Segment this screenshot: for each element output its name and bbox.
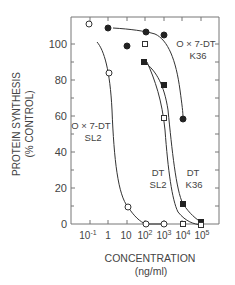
open-circle-marker xyxy=(106,70,112,76)
y-tick-100: 100 xyxy=(49,38,67,50)
annotation-dt-sl2-line2: SL2 xyxy=(150,179,167,190)
curve-ox7dt-sl2 xyxy=(97,42,164,224)
curve-dt-sl2 xyxy=(147,62,201,225)
annotation-ox7dt-k36-line1: O × 7-DT xyxy=(176,38,216,49)
filled-circle-marker xyxy=(180,116,186,122)
x-tick-labels: 10-1 1 10 102 103 104 105 xyxy=(79,229,209,241)
series-ox7dt-k36-markers xyxy=(105,25,186,122)
x-tick-10: 10 xyxy=(120,230,132,241)
series-dt-k36-markers xyxy=(142,60,204,225)
open-circle-marker xyxy=(143,221,149,227)
x-axis-title-line1: CONCENTRATION xyxy=(105,252,196,264)
filled-circle-marker xyxy=(105,25,111,31)
x-axis-title-line2: (ng/ml) xyxy=(135,265,168,277)
annotation-dt-k36-line2: K36 xyxy=(186,179,203,190)
annotation-dt-sl2-line1: DT xyxy=(152,167,165,178)
filled-square-marker xyxy=(181,202,186,207)
y-tick-60: 60 xyxy=(55,110,67,122)
y-tick-40: 40 xyxy=(55,146,67,158)
y-axis-title-line1: PROTEIN SYNTHESIS xyxy=(11,72,22,176)
annotation-dt-k36-line1: DT xyxy=(187,167,200,178)
open-square-marker xyxy=(181,222,186,227)
filled-square-marker xyxy=(142,60,147,65)
open-square-marker xyxy=(143,42,148,47)
x-tick-100: 102 xyxy=(137,229,152,241)
y-tick-labels: 100 80 60 40 20 0 xyxy=(49,38,67,230)
y-tick-80: 80 xyxy=(55,74,67,86)
y-tick-20: 20 xyxy=(55,182,67,194)
open-square-marker xyxy=(162,116,167,121)
y-axis-title: PROTEIN SYNTHESIS (% CONTROL) xyxy=(11,72,35,176)
dose-response-chart: 100 80 60 40 20 0 10-1 1 10 102 103 104 … xyxy=(0,0,235,285)
open-circle-marker xyxy=(125,204,131,210)
x-tick-10000: 104 xyxy=(175,229,190,241)
filled-circle-marker xyxy=(143,29,149,35)
x-axis-title: CONCENTRATION (ng/ml) xyxy=(105,252,196,277)
y-tick-0: 0 xyxy=(61,218,67,230)
x-tick-1000: 103 xyxy=(156,229,171,241)
annotation-ox7dt-sl2-line2: SL2 xyxy=(85,132,102,143)
filled-circle-marker xyxy=(124,43,130,49)
filled-circle-marker xyxy=(161,32,167,38)
fit-curves xyxy=(97,28,201,225)
filled-square-marker xyxy=(162,83,167,88)
y-axis-title-line2: (% CONTROL) xyxy=(24,90,35,157)
annotation-ox7dt-sl2-line1: O × 7-DT xyxy=(71,120,111,131)
open-circle-marker xyxy=(161,221,167,227)
x-tick-1: 1 xyxy=(105,230,111,241)
x-tick-0.1: 10-1 xyxy=(79,229,96,241)
x-tick-100000: 105 xyxy=(194,229,209,241)
open-circle-marker xyxy=(86,21,92,27)
open-square-marker xyxy=(199,223,204,228)
annotation-ox7dt-k36-line2: K36 xyxy=(190,50,207,61)
